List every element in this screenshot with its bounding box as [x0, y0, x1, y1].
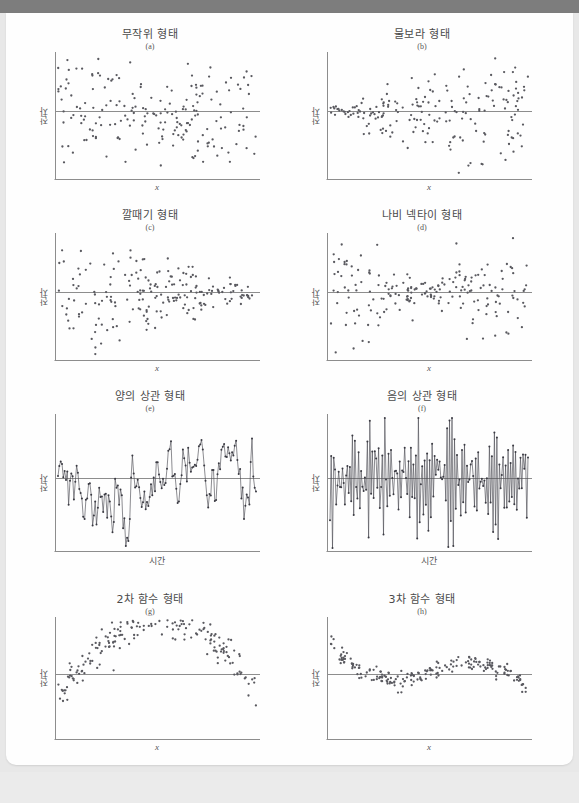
- panel-plot-row-f: 잔차: [308, 414, 536, 553]
- figure-panel-h: 3차 함수 형태(h)잔차x: [308, 593, 536, 752]
- y-axis-label-text-b: 잔차: [309, 107, 322, 125]
- panel-caption-d: (d): [308, 222, 536, 233]
- panel-title-d: 나비 넥타이 형태: [308, 209, 536, 222]
- y-axis-label-a: 잔차: [36, 107, 50, 127]
- panel-caption-g: (g): [36, 606, 264, 617]
- panel-title-c: 깔때기 형태: [36, 209, 264, 222]
- page-top-bar: [0, 0, 579, 13]
- panel-caption-e: (e): [36, 403, 264, 414]
- figure-panel-grid: 무작위 형태(a)잔차x물보라 형태(b)잔차x깔때기 형태(c)잔차x나비 넥…: [6, 13, 573, 765]
- figure-panel-a: 무작위 형태(a)잔차x: [36, 28, 264, 192]
- panel-plot-row-e: 잔차: [36, 414, 264, 553]
- plot-area-b: [326, 52, 532, 181]
- y-axis-label-text-c: 잔차: [37, 288, 50, 306]
- plot-area-f: [326, 414, 532, 553]
- x-axis-label-d: x: [326, 363, 532, 373]
- y-axis-label-text-e: 잔차: [37, 474, 50, 492]
- y-axis-label-e: 잔차: [36, 474, 50, 494]
- y-axis-label-h: 잔차: [308, 669, 322, 689]
- y-axis-label-d: 잔차: [308, 288, 322, 308]
- y-axis-label-text-f: 잔차: [309, 474, 322, 492]
- panel-plot-row-c: 잔차: [36, 233, 264, 362]
- y-axis-label-g: 잔차: [36, 669, 50, 689]
- panel-plot-row-d: 잔차: [308, 233, 536, 362]
- plot-area-g: [54, 617, 260, 741]
- paper-sheet: 무작위 형태(a)잔차x물보라 형태(b)잔차x깔때기 형태(c)잔차x나비 넥…: [6, 13, 573, 765]
- panel-plot-row-h: 잔차: [308, 617, 536, 741]
- page: 무작위 형태(a)잔차x물보라 형태(b)잔차x깔때기 형태(c)잔차x나비 넥…: [0, 0, 579, 803]
- plot-area-c: [54, 233, 260, 362]
- panel-title-e: 양의 상관 형태: [36, 390, 264, 403]
- panel-title-a: 무작위 형태: [36, 28, 264, 41]
- x-axis-label-h: x: [326, 742, 532, 752]
- panel-caption-h: (h): [308, 606, 536, 617]
- y-axis-label-b: 잔차: [308, 107, 322, 127]
- plot-area-e: [54, 414, 260, 553]
- panel-title-f: 음의 상관 형태: [308, 390, 536, 403]
- plot-area-a: [54, 52, 260, 181]
- x-axis-label-g: x: [54, 742, 260, 752]
- x-axis-label-b: x: [326, 182, 532, 192]
- page-bottom-band: [0, 772, 579, 803]
- figure-panel-d: 나비 넥타이 형태(d)잔차x: [308, 209, 536, 373]
- y-axis-label-c: 잔차: [36, 288, 50, 308]
- panel-title-g: 2차 함수 형태: [36, 593, 264, 606]
- panel-caption-f: (f): [308, 403, 536, 414]
- y-axis-label-text-a: 잔차: [37, 107, 50, 125]
- figure-panel-e: 양의 상관 형태(e)잔차시간: [36, 390, 264, 567]
- y-axis-label-text-h: 잔차: [309, 669, 322, 687]
- figure-panel-g: 2차 함수 형태(g)잔차x: [36, 593, 264, 752]
- panel-plot-row-g: 잔차: [36, 617, 264, 741]
- plot-area-h: [326, 617, 532, 741]
- panel-title-h: 3차 함수 형태: [308, 593, 536, 606]
- x-axis-label-a: x: [54, 182, 260, 192]
- x-axis-label-f: 시간: [326, 554, 532, 567]
- panel-title-b: 물보라 형태: [308, 28, 536, 41]
- y-axis-label-f: 잔차: [308, 474, 322, 494]
- panel-caption-a: (a): [36, 41, 264, 52]
- y-axis-label-text-d: 잔차: [309, 288, 322, 306]
- panel-caption-b: (b): [308, 41, 536, 52]
- figure-panel-f: 음의 상관 형태(f)잔차시간: [308, 390, 536, 567]
- panel-plot-row-a: 잔차: [36, 52, 264, 181]
- x-axis-label-e: 시간: [54, 554, 260, 567]
- x-axis-label-c: x: [54, 363, 260, 373]
- panel-caption-c: (c): [36, 222, 264, 233]
- figure-panel-b: 물보라 형태(b)잔차x: [308, 28, 536, 192]
- y-axis-label-text-g: 잔차: [37, 669, 50, 687]
- figure-panel-c: 깔때기 형태(c)잔차x: [36, 209, 264, 373]
- panel-plot-row-b: 잔차: [308, 52, 536, 181]
- plot-area-d: [326, 233, 532, 362]
